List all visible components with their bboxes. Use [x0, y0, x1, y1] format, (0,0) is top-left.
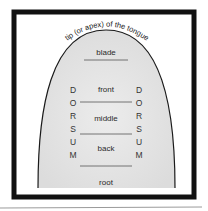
page-rule: [0, 207, 202, 208]
region-front: front: [98, 85, 115, 94]
svg-text:U: U: [136, 137, 142, 147]
svg-text:R: R: [136, 111, 142, 121]
svg-text:O: O: [136, 98, 143, 108]
region-root: root: [99, 178, 114, 187]
region-blade: blade: [96, 48, 116, 57]
svg-text:S: S: [136, 124, 142, 134]
region-back: back: [98, 144, 116, 153]
svg-text:D: D: [136, 85, 142, 95]
svg-text:R: R: [70, 111, 76, 121]
svg-text:D: D: [70, 85, 76, 95]
tongue-diagram: tip (or apex) of the tongue blade front …: [0, 0, 208, 211]
region-middle: middle: [94, 114, 118, 123]
svg-text:M: M: [69, 150, 76, 160]
svg-text:M: M: [135, 150, 142, 160]
svg-text:O: O: [70, 98, 77, 108]
svg-text:U: U: [70, 137, 76, 147]
svg-text:S: S: [70, 124, 76, 134]
